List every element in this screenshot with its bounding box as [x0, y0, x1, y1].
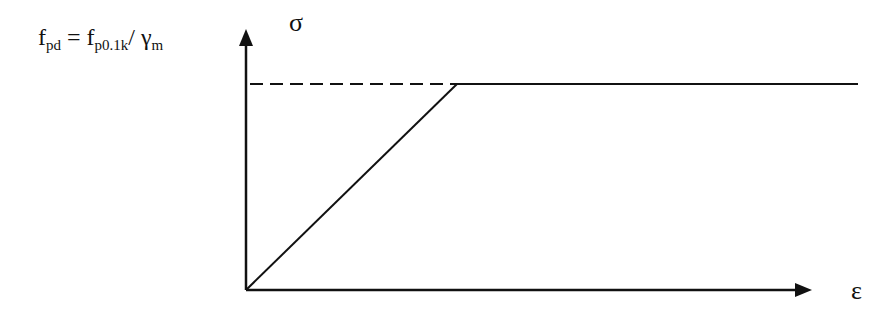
- x-axis-arrowhead-icon: [795, 283, 812, 297]
- y-axis-arrowhead-icon: [239, 29, 253, 46]
- formula-rhs-subscript: p0.1k: [95, 37, 129, 53]
- formula-gamma-subscript: m: [152, 37, 164, 53]
- formula-equals: =: [61, 24, 87, 50]
- design-strength-formula: fpd = fp0.1k/ γm: [38, 24, 163, 54]
- formula-lhs: f: [38, 24, 46, 50]
- y-axis-label: σ: [289, 8, 303, 38]
- formula-gamma: γ: [141, 24, 152, 50]
- formula-rhs: f: [87, 24, 95, 50]
- elastic-branch-line: [246, 84, 457, 290]
- x-axis-label: ε: [851, 276, 862, 306]
- formula-slash: /: [128, 24, 141, 50]
- formula-lhs-subscript: pd: [46, 37, 61, 53]
